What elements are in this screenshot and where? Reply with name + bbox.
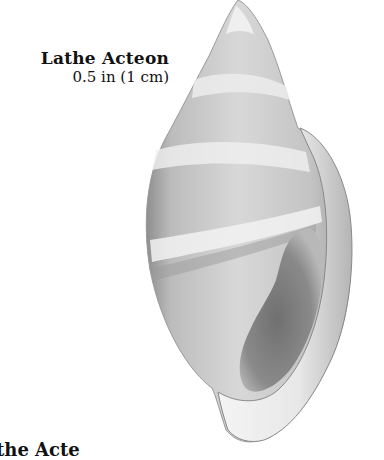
next-caption-partial: the Acte [0, 440, 80, 460]
shell-illustration [140, 0, 384, 455]
